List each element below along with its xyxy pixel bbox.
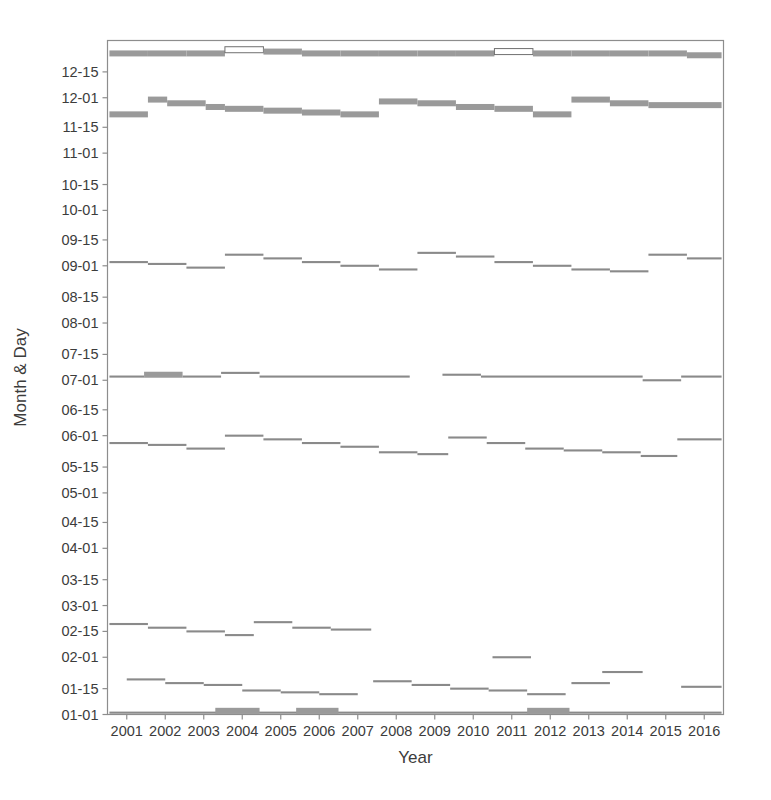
data-segment bbox=[225, 106, 263, 112]
x-axis-title: Year bbox=[398, 748, 433, 767]
y-tick-label: 05-01 bbox=[61, 485, 98, 501]
y-axis-title: Month & Day bbox=[11, 328, 30, 427]
y-tick-label: 09-15 bbox=[61, 232, 98, 248]
data-segment bbox=[340, 50, 379, 56]
y-tick-label: 02-15 bbox=[61, 623, 98, 639]
data-segment bbox=[127, 678, 166, 680]
series-band-02-01-outlier bbox=[493, 656, 532, 658]
data-segment bbox=[302, 261, 341, 263]
series-band-01-01-thick-c bbox=[527, 708, 569, 714]
x-tick-label: 2009 bbox=[419, 723, 451, 739]
data-segment bbox=[206, 104, 225, 110]
data-segment bbox=[641, 455, 678, 457]
data-segment bbox=[379, 50, 418, 56]
x-tick-label: 2012 bbox=[534, 723, 566, 739]
data-segment bbox=[525, 448, 564, 450]
y-tick-label: 06-15 bbox=[61, 402, 98, 418]
data-segment bbox=[456, 255, 495, 257]
y-tick-label: 11-01 bbox=[62, 145, 98, 161]
data-segment bbox=[571, 97, 610, 103]
data-segment bbox=[302, 442, 341, 444]
data-segment bbox=[109, 712, 721, 714]
data-segment bbox=[186, 50, 225, 56]
data-segment bbox=[340, 446, 379, 448]
data-segment bbox=[109, 376, 144, 378]
data-segment bbox=[109, 50, 148, 56]
data-segment bbox=[602, 671, 642, 673]
x-tick-label: 2011 bbox=[496, 723, 527, 739]
data-segment bbox=[215, 708, 259, 714]
y-tick-label: 01-15 bbox=[61, 681, 98, 697]
x-tick-label: 2001 bbox=[111, 723, 143, 739]
y-tick-label: 10-15 bbox=[61, 177, 98, 193]
data-segment bbox=[225, 435, 263, 437]
data-segment bbox=[571, 682, 610, 684]
data-segment bbox=[204, 684, 243, 686]
data-segment-hollow bbox=[225, 47, 263, 53]
data-segment bbox=[527, 693, 566, 695]
data-segment bbox=[167, 100, 206, 106]
data-segment bbox=[648, 50, 687, 56]
data-segment bbox=[242, 689, 281, 691]
data-segment bbox=[379, 451, 418, 453]
x-tick-label: 2013 bbox=[573, 723, 605, 739]
data-segment bbox=[379, 98, 418, 104]
data-segment bbox=[610, 270, 649, 272]
data-segment bbox=[571, 50, 610, 56]
data-segment bbox=[648, 102, 721, 108]
data-segment bbox=[263, 257, 302, 259]
data-segment bbox=[417, 252, 456, 254]
data-segment bbox=[602, 451, 641, 453]
series-band-01-01-thick-a bbox=[215, 708, 259, 714]
chart-figure: 01-0101-1502-0102-1503-0103-1504-0104-15… bbox=[0, 0, 771, 800]
x-tick-label: 2004 bbox=[226, 723, 258, 739]
y-tick-label: 10-01 bbox=[61, 202, 98, 218]
series-band-01-01-thick-b bbox=[296, 708, 338, 714]
data-segment bbox=[533, 50, 572, 56]
data-segment bbox=[494, 106, 533, 112]
data-segment bbox=[109, 623, 148, 625]
y-tick-label: 07-15 bbox=[61, 346, 98, 362]
data-segment bbox=[564, 449, 603, 451]
y-tick-label: 07-01 bbox=[61, 372, 98, 388]
data-segment bbox=[487, 442, 525, 444]
data-segment bbox=[186, 267, 225, 269]
data-segment bbox=[186, 448, 225, 450]
data-segment bbox=[681, 376, 721, 378]
data-segment bbox=[448, 436, 487, 438]
y-tick-label: 04-15 bbox=[61, 514, 98, 530]
data-segment bbox=[109, 111, 148, 117]
x-tick-label: 2015 bbox=[650, 723, 682, 739]
data-segment bbox=[165, 682, 204, 684]
data-segment bbox=[302, 110, 341, 116]
data-segment bbox=[281, 691, 320, 693]
data-segment bbox=[681, 686, 721, 688]
data-segment bbox=[340, 265, 379, 267]
y-tick-label: 12-15 bbox=[61, 64, 98, 80]
data-segment bbox=[331, 629, 371, 631]
y-tick-label: 04-01 bbox=[61, 540, 98, 556]
data-segment bbox=[417, 453, 448, 455]
data-segment bbox=[221, 372, 260, 374]
y-tick-label: 03-15 bbox=[61, 572, 98, 588]
data-segment bbox=[494, 261, 533, 263]
data-segment bbox=[148, 627, 187, 629]
data-segment bbox=[379, 268, 418, 270]
y-tick-label: 12-01 bbox=[61, 90, 98, 106]
data-segment bbox=[144, 372, 183, 378]
data-segment bbox=[493, 656, 532, 658]
data-segment bbox=[263, 49, 302, 55]
data-segment bbox=[610, 50, 649, 56]
data-segment bbox=[260, 376, 410, 378]
y-tick-label: 06-01 bbox=[61, 428, 98, 444]
data-segment bbox=[292, 627, 331, 629]
x-tick-label: 2005 bbox=[265, 723, 297, 739]
y-tick-label: 02-01 bbox=[61, 649, 98, 665]
data-segment bbox=[643, 379, 682, 381]
data-segment bbox=[527, 708, 569, 714]
data-segment-hollow bbox=[494, 49, 533, 55]
y-tick-label: 11-15 bbox=[62, 119, 98, 135]
y-tick-label: 08-15 bbox=[61, 289, 98, 305]
data-segment bbox=[225, 634, 254, 636]
data-segment bbox=[302, 50, 341, 56]
